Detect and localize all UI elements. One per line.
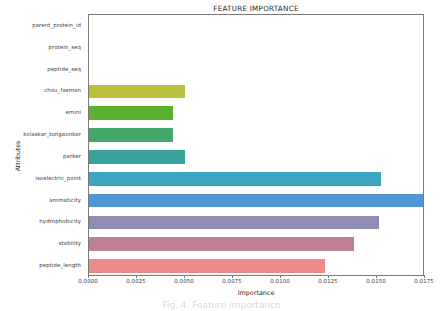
figure-caption: Fig. 4. Feature importance: [0, 300, 443, 311]
x-tick-0.0100: 0.0100: [270, 278, 289, 284]
bar-parent_protein_id: [89, 19, 424, 33]
x-tick-0.0125: 0.0125: [318, 278, 337, 284]
x-tick-mark: [136, 275, 137, 278]
bar-fill: [89, 172, 381, 186]
bar-hydrophobicity: [89, 216, 424, 230]
x-tick-0.0175: 0.0175: [414, 278, 433, 284]
bar-isoelectric_point: [89, 172, 424, 186]
bar-stability: [89, 237, 424, 251]
bar-fill: [89, 216, 379, 230]
bar-emini: [89, 106, 424, 120]
x-axis-title: Importance: [88, 289, 424, 297]
y-tick-parker: parker: [63, 153, 81, 159]
bar-kolaskar_tongaonkar: [89, 128, 424, 142]
x-tick-mark: [184, 275, 185, 278]
bar-parker: [89, 150, 424, 164]
x-tick-mark: [376, 275, 377, 278]
x-tick-mark: [88, 275, 89, 278]
y-tick-peptide_seq: peptide_seq: [47, 66, 81, 72]
x-tick-0.0075: 0.0075: [222, 278, 241, 284]
bar-aromaticity: [89, 194, 424, 208]
bar-fill: [89, 128, 173, 142]
x-tick-0.0150: 0.0150: [366, 278, 385, 284]
y-tick-hydrophobicity: hydrophobicity: [39, 218, 81, 224]
y-tick-stability: stability: [59, 240, 81, 246]
y-tick-parent_protein_id: parent_protein_id: [32, 22, 81, 28]
feature-importance-figure: FEATURE IMPORTANCE Attributes parent_pro…: [0, 0, 443, 311]
y-tick-peptide_length: peptide_length: [39, 262, 81, 268]
y-axis-tick-labels: parent_protein_idprotein_seqpeptide_seqc…: [0, 14, 85, 276]
x-tick-mark: [232, 275, 233, 278]
x-tick-mark: [328, 275, 329, 278]
bar-peptide_length: [89, 259, 424, 273]
x-tick-mark: [280, 275, 281, 278]
x-tick-0.0050: 0.0050: [174, 278, 193, 284]
chart-title: FEATURE IMPORTANCE: [88, 4, 424, 13]
bar-fill: [89, 194, 423, 208]
bar-chou_fasman: [89, 85, 424, 99]
y-tick-protein_seq: protein_seq: [48, 44, 81, 50]
x-tick-mark: [424, 275, 425, 278]
bar-protein_seq: [89, 41, 424, 55]
y-tick-emini: emini: [66, 109, 81, 115]
y-tick-kolaskar_tongaonkar: kolaskar_tongaonkar: [23, 131, 81, 137]
bar-series: [89, 15, 423, 275]
bar-peptide_seq: [89, 63, 424, 77]
bar-fill: [89, 237, 354, 251]
y-tick-aromaticity: aromaticity: [49, 197, 81, 203]
bar-fill: [89, 150, 185, 164]
x-tick-0.0025: 0.0025: [126, 278, 145, 284]
bar-fill: [89, 106, 173, 120]
y-tick-isoelectric_point: isoelectric_point: [35, 175, 81, 181]
x-tick-0.0000: 0.0000: [78, 278, 97, 284]
plot-area: [88, 14, 424, 276]
bar-fill: [89, 259, 325, 273]
y-tick-chou_fasman: chou_fasman: [44, 87, 81, 93]
bar-fill: [89, 85, 185, 99]
